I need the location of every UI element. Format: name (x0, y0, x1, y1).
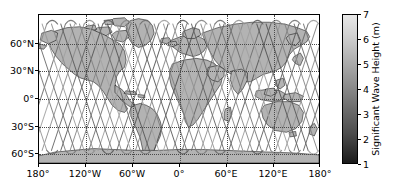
xtick-label-0: 0° (174, 168, 185, 179)
xtick-label-120W: 120°W (69, 168, 101, 179)
colorbar-title-text: Significant Wave Height (m) (369, 14, 382, 164)
world-map-svg (39, 15, 319, 163)
cb-tick-mark-7 (358, 14, 361, 15)
xtick-label-60E: 60°E (215, 168, 238, 179)
xtick-mark-180E (319, 164, 320, 167)
map-clip (39, 15, 319, 163)
xtick-mark-120W (85, 164, 86, 167)
cb-tick-mark-6 (358, 39, 361, 40)
figure-root: 60°N 30°N 0° 30°S 60°S 180° 120°W 60°W 0… (0, 0, 396, 193)
ytick-label-30S: 30°S (0, 121, 34, 132)
cb-tick-mark-3 (358, 114, 361, 115)
colorbar-title: Significant Wave Height (m) (369, 14, 383, 164)
xtick-mark-120E (273, 164, 274, 167)
xtick-mark-60E (226, 164, 227, 167)
cb-tick-mark-5 (358, 64, 361, 65)
ytick-label-30N: 30°N (0, 65, 34, 76)
xtick-label-180W: 180° (27, 168, 50, 179)
xtick-label-180E: 180° (309, 168, 332, 179)
xtick-mark-180W (38, 164, 39, 167)
ytick-label-0: 0° (0, 93, 34, 104)
xtick-mark-0 (179, 164, 180, 167)
cb-tick-mark-4 (358, 89, 361, 90)
cb-tick-mark-2 (358, 139, 361, 140)
colorbar-gradient (343, 15, 357, 163)
colorbar (342, 14, 358, 164)
xtick-label-60W: 60°W (119, 168, 145, 179)
cb-tick-mark-1 (358, 164, 361, 165)
xtick-label-120E: 120°E (259, 168, 288, 179)
ytick-label-60N: 60°N (0, 38, 34, 49)
ytick-label-60S: 60°S (0, 148, 34, 159)
map-axes (38, 14, 320, 164)
xtick-mark-60W (132, 164, 133, 167)
